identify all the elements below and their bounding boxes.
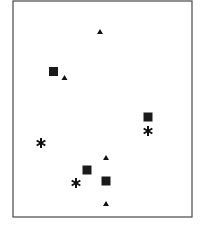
square-marker <box>49 67 58 76</box>
square-marker <box>83 166 92 175</box>
scatter-plot <box>0 0 202 228</box>
square-marker <box>102 177 111 186</box>
square-marker <box>144 113 153 122</box>
